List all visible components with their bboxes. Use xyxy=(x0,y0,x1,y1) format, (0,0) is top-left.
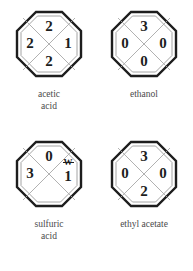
hazard-symbol-ethyl-acetate: 3 0 0 2 ethyl acetate xyxy=(96,140,192,230)
caption-line-1: acetic xyxy=(1,88,97,100)
caption-line-1: ethyl acetate xyxy=(96,218,192,230)
symbol-caption: ethyl acetate xyxy=(96,218,192,230)
symbol-caption: ethanol xyxy=(96,88,192,100)
caption-line-2: acid xyxy=(1,100,97,112)
octagon-outline-icon xyxy=(15,140,83,208)
octagon-outline-icon xyxy=(15,10,83,78)
hazard-symbol-sulfuric-acid: 0 3 W 1 sulfuric acid xyxy=(1,140,97,242)
nfpa-hazard-symbol-figure: 2 2 1 2 acetic acid 3 0 0 0 xyxy=(0,0,193,271)
hazard-symbol-acetic-acid: 2 2 1 2 acetic acid xyxy=(1,10,97,112)
octagon-badge: 0 3 W 1 xyxy=(15,140,83,208)
octagon-badge: 3 0 0 0 xyxy=(110,10,178,78)
caption-line-1: sulfuric xyxy=(1,218,97,230)
octagon-badge: 3 0 0 2 xyxy=(110,140,178,208)
octagon-badge: 2 2 1 2 xyxy=(15,10,83,78)
hazard-symbol-ethanol: 3 0 0 0 ethanol xyxy=(96,10,192,100)
caption-line-2: acid xyxy=(1,230,97,242)
octagon-outline-icon xyxy=(110,140,178,208)
octagon-outline-icon xyxy=(110,10,178,78)
symbol-caption: acetic acid xyxy=(1,88,97,112)
caption-line-1: ethanol xyxy=(96,88,192,100)
symbol-caption: sulfuric acid xyxy=(1,218,97,242)
